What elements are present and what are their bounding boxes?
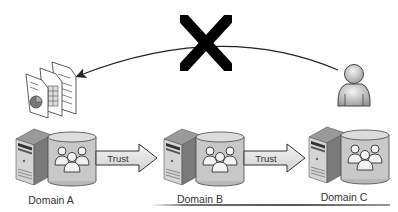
user-group-icon (46, 129, 98, 187)
domain-c (305, 123, 395, 193)
bottom-divider (150, 204, 390, 206)
domain-a (12, 125, 102, 195)
documents-icon (22, 60, 82, 118)
trust-label: Trust (107, 153, 129, 164)
domain-a-label: Domain A (11, 194, 91, 206)
user-group-icon (194, 129, 246, 187)
domain-b (160, 125, 250, 195)
trust-label: Trust (255, 153, 277, 164)
user-group-icon (339, 127, 391, 185)
trust-arrow-a-b: Trust (95, 143, 159, 173)
domain-c-label: Domain C (304, 191, 384, 203)
user-icon (334, 60, 374, 110)
trust-arrow-b-c: Trust (243, 143, 307, 173)
cross-icon (180, 15, 232, 71)
